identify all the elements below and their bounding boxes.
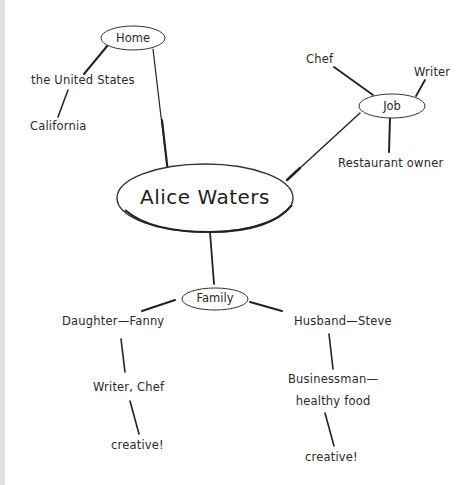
node-family-label: Family (196, 291, 233, 305)
node-creative-right-label: creative! (305, 450, 358, 464)
edge-family-daughter (142, 300, 175, 311)
edge-daughter-writerchef (121, 339, 125, 372)
edge-husband-businessman (329, 334, 333, 369)
node-husband-label: Husband—Steve (294, 314, 392, 328)
node-writer-chef-label: Writer, Chef (93, 380, 164, 394)
node-writer-label: Writer (414, 65, 450, 79)
edge-center-family (210, 232, 214, 284)
node-businessman-line1: Businessman— (288, 368, 378, 390)
center-node-label: Alice Waters (140, 185, 270, 209)
edge-home-us (84, 45, 108, 74)
edge-us-california (58, 90, 68, 117)
node-job-label: Job (383, 99, 401, 113)
edge-family-husband (250, 302, 282, 311)
node-california-label: California (30, 119, 87, 133)
edge-writerchef-creative (130, 401, 139, 434)
node-businessman-label: Businessman— healthy food (288, 368, 378, 412)
edge-chef-job (334, 67, 373, 95)
edge-businessman-creative (325, 413, 334, 446)
node-creative-left-label: creative! (111, 438, 164, 452)
node-home-label: Home (116, 31, 150, 45)
edge-writer-job (416, 80, 425, 96)
node-united-states-label: the United States (31, 73, 135, 87)
node-chef-label: Chef (306, 52, 333, 66)
edge-job-restaurant (389, 118, 390, 152)
node-businessman-line2: healthy food (288, 390, 378, 412)
node-daughter-label: Daughter—Fanny (62, 314, 164, 328)
node-restaurant-owner-label: Restaurant owner (338, 156, 443, 170)
